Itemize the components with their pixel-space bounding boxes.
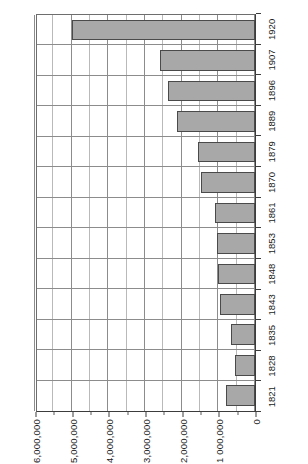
bar[interactable] bbox=[217, 233, 255, 254]
bar-slot bbox=[37, 228, 255, 258]
value-axis-label-text: 1 000,000 bbox=[214, 412, 225, 463]
bar-slot bbox=[37, 137, 255, 167]
value-axis-label-text: 0 bbox=[251, 412, 262, 424]
bar-slot bbox=[37, 76, 255, 106]
bar-series bbox=[37, 15, 255, 411]
bar-slot bbox=[37, 15, 255, 45]
rotated-chart-wrapper: 01 000,0002,000,0003,000,0004,000,0005,0… bbox=[0, 0, 308, 464]
bar[interactable] bbox=[160, 50, 255, 71]
value-tick-minor bbox=[164, 412, 165, 415]
category-axis-label: 1835 bbox=[258, 320, 302, 351]
bar-slot bbox=[37, 259, 255, 289]
category-axis-label: 1861 bbox=[258, 198, 302, 229]
value-axis-label-text: 4,000,000 bbox=[104, 412, 115, 463]
category-axis-label: 1828 bbox=[258, 351, 302, 382]
bar[interactable] bbox=[235, 355, 255, 376]
bar-slot bbox=[37, 320, 255, 350]
value-tick-minor bbox=[91, 412, 92, 415]
bar-slot bbox=[37, 198, 255, 228]
bar-slot bbox=[37, 106, 255, 136]
bar[interactable] bbox=[177, 111, 255, 132]
bar-chart: 01 000,0002,000,0003,000,0004,000,0005,0… bbox=[0, 0, 308, 464]
category-axis-label: 1896 bbox=[258, 75, 302, 106]
category-axis-label: 1879 bbox=[258, 137, 302, 168]
bar-slot bbox=[37, 350, 255, 380]
plot-area bbox=[36, 14, 256, 412]
bar-slot bbox=[37, 167, 255, 197]
category-axis-label: 1821 bbox=[258, 381, 302, 412]
bar[interactable] bbox=[220, 294, 255, 315]
bar-slot bbox=[37, 289, 255, 319]
bar[interactable] bbox=[72, 20, 255, 41]
bar-slot bbox=[37, 381, 255, 411]
category-axis: 1821182818351843184818531861187018791889… bbox=[258, 14, 302, 412]
value-axis-label: 2,000,000 bbox=[177, 412, 188, 464]
value-axis-label: 4,000,000 bbox=[104, 412, 115, 464]
category-axis-label: 1889 bbox=[258, 106, 302, 137]
value-axis-label: 1 000,000 bbox=[214, 412, 225, 464]
value-axis-label-text: 5,000,000 bbox=[67, 412, 78, 463]
value-tick-minor bbox=[127, 412, 128, 415]
bar[interactable] bbox=[168, 81, 255, 102]
category-axis-label: 1848 bbox=[258, 259, 302, 290]
category-axis-label: 1870 bbox=[258, 167, 302, 198]
value-axis: 01 000,0002,000,0003,000,0004,000,0005,0… bbox=[36, 412, 256, 464]
value-axis-label: 6,000,000 bbox=[31, 412, 42, 464]
bar[interactable] bbox=[198, 142, 255, 163]
category-axis-label: 1920 bbox=[258, 14, 302, 45]
value-tick-minor bbox=[54, 412, 55, 415]
bar[interactable] bbox=[215, 203, 255, 224]
bar-slot bbox=[37, 45, 255, 75]
value-axis-label: 0 bbox=[251, 412, 262, 464]
value-axis-label-text: 3,000,000 bbox=[141, 412, 152, 463]
category-axis-label: 1907 bbox=[258, 45, 302, 76]
gridline-major bbox=[34, 15, 35, 411]
value-tick-minor bbox=[237, 412, 238, 415]
bar[interactable] bbox=[231, 324, 255, 345]
bar[interactable] bbox=[226, 385, 255, 406]
value-tick-minor bbox=[201, 412, 202, 415]
value-axis-label-text: 2,000,000 bbox=[177, 412, 188, 463]
category-axis-label: 1843 bbox=[258, 290, 302, 321]
bar[interactable] bbox=[218, 264, 255, 285]
value-axis-label: 5,000,000 bbox=[67, 412, 78, 464]
category-axis-label: 1853 bbox=[258, 228, 302, 259]
value-axis-label-text: 6,000,000 bbox=[31, 412, 42, 463]
value-axis-label: 3,000,000 bbox=[141, 412, 152, 464]
bar[interactable] bbox=[201, 172, 255, 193]
